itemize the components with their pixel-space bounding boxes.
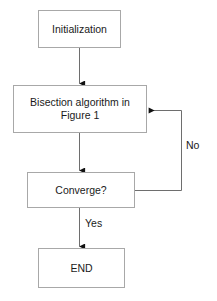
node-initialization-label: Initialization: [49, 23, 110, 36]
node-bisection-algorithm-label: Bisection algorithm in Figure 1: [27, 96, 133, 122]
edge-label-no: No: [186, 139, 199, 151]
node-converge-decision[interactable]: Converge?: [27, 172, 135, 208]
node-converge-decision-label: Converge?: [52, 184, 109, 197]
flowchart-canvas: Initialization Bisection algorithm in Fi…: [0, 0, 217, 301]
node-end[interactable]: END: [38, 248, 125, 288]
edge-label-yes: Yes: [85, 217, 102, 229]
node-bisection-algorithm[interactable]: Bisection algorithm in Figure 1: [13, 85, 147, 133]
node-initialization[interactable]: Initialization: [38, 10, 121, 48]
node-end-label: END: [67, 262, 95, 275]
